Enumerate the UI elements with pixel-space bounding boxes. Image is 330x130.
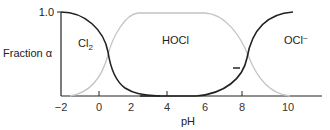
ocl-curve bbox=[140, 12, 293, 96]
fraction-chart: 1.0 Fraction α Cl2 HOCl OCl– −2 0 2 4 6 … bbox=[0, 0, 330, 130]
cl2-curve bbox=[61, 12, 160, 96]
ocl-label: OCl– bbox=[284, 33, 308, 46]
y-tick-label-1: 1.0 bbox=[39, 6, 54, 18]
x-tick-label: 2 bbox=[128, 101, 134, 113]
y-axis-label: Fraction α bbox=[3, 47, 53, 59]
x-tick-label: 4 bbox=[164, 101, 170, 113]
hocl-curve bbox=[70, 13, 290, 96]
x-tick-label: 8 bbox=[239, 101, 245, 113]
x-tick-label: 10 bbox=[282, 101, 294, 113]
x-tick-label: 6 bbox=[202, 101, 208, 113]
x-tick-label: −2 bbox=[55, 101, 68, 113]
x-tick-label: 0 bbox=[96, 101, 102, 113]
cl2-label: Cl2 bbox=[78, 37, 93, 52]
x-axis-label: pH bbox=[181, 115, 195, 127]
hocl-label: HOCl bbox=[162, 34, 189, 46]
